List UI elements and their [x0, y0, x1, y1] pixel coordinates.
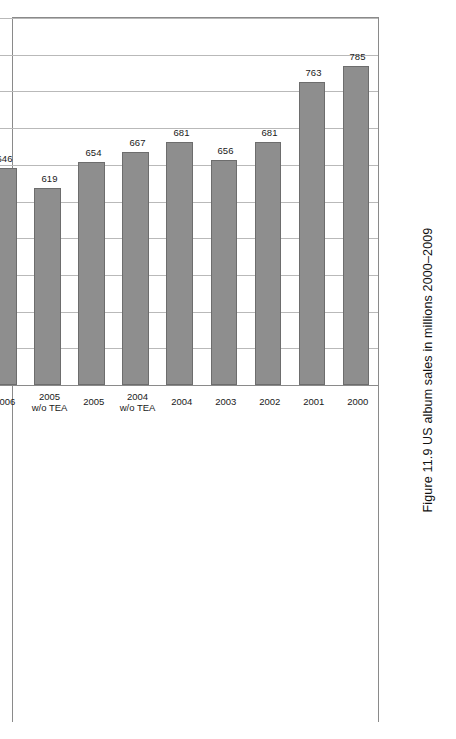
bar-value-label: 681 [249, 127, 289, 138]
gridline [0, 55, 378, 56]
bar[interactable] [167, 142, 193, 385]
bar[interactable] [78, 162, 104, 385]
bar-value-label: 619 [29, 172, 69, 183]
caption-text: Figure 11.9 US album sales in millions 2… [421, 227, 435, 512]
bar[interactable] [122, 152, 148, 385]
bar[interactable] [0, 168, 17, 385]
bar-value-label: 763 [293, 66, 333, 77]
bar-value-label: 654 [73, 146, 113, 157]
bar-value-label: 785 [337, 50, 377, 61]
figure-page: 850800750700650600550500450400350 785200… [0, 0, 456, 739]
bar[interactable] [255, 142, 281, 385]
bar-value-label: 667 [117, 137, 157, 148]
bar[interactable] [211, 160, 237, 385]
bar-value-label: 656 [205, 145, 245, 156]
bar[interactable] [299, 82, 325, 385]
gridline [0, 18, 378, 19]
category-label: 2006 [0, 397, 35, 408]
bar[interactable] [343, 66, 369, 385]
plot-area [12, 17, 379, 722]
chart-rotation-wrapper: 850800750700650600550500450400350 785200… [0, 0, 400, 739]
figure-caption: Figure 11.9 US album sales in millions 2… [408, 0, 448, 739]
bar-value-label: 681 [161, 127, 201, 138]
bar-chart: 850800750700650600550500450400350 785200… [0, 0, 400, 739]
bar-value-label: 646 [0, 152, 25, 163]
gridline [0, 385, 378, 386]
bar[interactable] [34, 188, 60, 385]
